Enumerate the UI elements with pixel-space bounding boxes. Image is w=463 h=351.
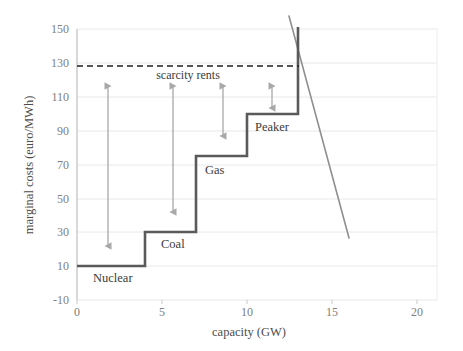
y-tick-label-30: 30 [57,225,69,239]
coal-label: Coal [161,237,185,251]
x-tick-label-10: 10 [241,305,253,319]
y-tick-label-50: 50 [57,192,69,206]
chart-background [0,0,463,351]
gas-label: Gas [205,163,225,177]
scarcity-rents-label: scarcity rents [156,68,220,82]
nuclear-label: Nuclear [93,271,133,285]
x-axis-title: capacity (GW) [212,325,286,339]
y-tick-label-90: 90 [57,124,69,138]
supply-demand-merit-order-chart: 150 130 110 90 70 50 30 10 -10 0 5 10 15… [0,0,463,351]
peaker-label: Peaker [255,120,290,134]
y-axis-title: marginal costs (euro/MWh) [22,96,36,235]
x-tick-label-15: 15 [326,305,338,319]
x-tick-label-20: 20 [411,305,423,319]
y-tick-label-130: 130 [51,56,69,70]
y-tick-label-70: 70 [57,158,69,172]
y-tick-label-minus10: -10 [53,293,69,307]
y-tick-label-10: 10 [57,259,69,273]
x-tick-label-0: 0 [74,305,80,319]
y-tick-label-150: 150 [51,22,69,36]
x-tick-label-5: 5 [159,305,165,319]
chart-figure: 150 130 110 90 70 50 30 10 -10 0 5 10 15… [0,0,463,351]
y-tick-label-110: 110 [51,90,69,104]
